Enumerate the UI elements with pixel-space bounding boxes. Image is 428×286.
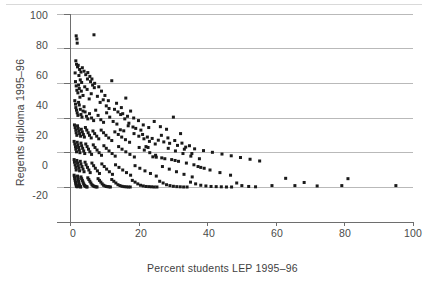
data-point (90, 117, 93, 120)
data-point (74, 59, 77, 62)
data-point (147, 126, 150, 129)
data-point (79, 113, 82, 116)
x-tick-label-60: 60 (261, 227, 293, 239)
data-point (284, 177, 287, 180)
data-point (79, 135, 82, 138)
data-point (108, 116, 111, 119)
data-point (87, 131, 90, 134)
data-point (175, 170, 178, 173)
data-point (186, 185, 189, 188)
data-point (86, 185, 89, 188)
data-point (105, 168, 108, 171)
data-point (100, 162, 103, 165)
data-point (303, 181, 306, 184)
data-point (95, 135, 98, 138)
data-point (127, 122, 130, 125)
data-point (97, 114, 100, 117)
data-point (103, 94, 106, 97)
data-point (136, 182, 139, 185)
data-point (189, 155, 192, 158)
data-point (116, 110, 119, 113)
data-point (79, 160, 82, 163)
data-point (91, 130, 94, 133)
data-point (97, 137, 100, 140)
data-point (124, 150, 127, 153)
data-point (143, 169, 146, 172)
data-point (100, 90, 103, 93)
data-point (102, 144, 105, 147)
data-point (199, 184, 202, 187)
data-point (74, 71, 77, 74)
data-point (168, 184, 171, 187)
data-point (177, 160, 180, 163)
data-point (114, 155, 117, 158)
data-point (167, 147, 170, 150)
data-point (76, 162, 79, 165)
data-point (126, 115, 129, 118)
data-point (78, 96, 81, 99)
data-point (120, 136, 123, 139)
data-point (103, 165, 106, 168)
data-point (111, 173, 114, 176)
data-point (83, 170, 86, 173)
data-point (151, 137, 154, 140)
data-point (82, 133, 85, 136)
data-point (76, 111, 79, 114)
data-point (123, 117, 126, 120)
data-point (75, 169, 78, 172)
data-point (79, 78, 82, 81)
data-point (188, 144, 191, 147)
data-point (129, 174, 132, 177)
data-point (153, 120, 156, 123)
data-point (91, 84, 94, 87)
data-point (93, 132, 96, 135)
data-point (90, 162, 93, 165)
data-point (184, 146, 187, 149)
data-point (142, 123, 145, 126)
data-point (198, 157, 201, 160)
data-point (83, 152, 86, 155)
data-point (146, 136, 149, 139)
data-point (189, 181, 192, 184)
data-point (125, 171, 128, 174)
data-point (134, 127, 137, 130)
data-point (122, 129, 125, 132)
data-point (79, 71, 82, 74)
data-point (151, 155, 154, 158)
data-point (172, 185, 175, 188)
data-point (190, 152, 193, 155)
data-point (162, 182, 165, 185)
data-point (107, 99, 110, 102)
data-point (76, 141, 79, 144)
data-point (128, 141, 131, 144)
data-point (90, 136, 93, 139)
data-point (84, 143, 87, 146)
data-point (121, 169, 124, 172)
data-point (115, 123, 118, 126)
data-point (113, 130, 116, 133)
data-point (96, 149, 99, 152)
data-point (254, 185, 257, 188)
data-point (158, 180, 161, 183)
data-point (75, 34, 78, 37)
data-point (137, 119, 140, 122)
data-point (110, 139, 113, 142)
data-point (75, 150, 78, 153)
data-point (142, 137, 145, 140)
data-point (203, 167, 206, 170)
data-point (131, 126, 134, 129)
data-point (155, 156, 158, 159)
data-point (86, 78, 89, 81)
data-point (113, 108, 116, 111)
data-point (100, 129, 103, 132)
data-point (180, 142, 183, 145)
data-point (165, 128, 168, 131)
data-point (74, 106, 77, 109)
data-point (114, 163, 117, 166)
data-point (88, 97, 91, 100)
data-point (100, 154, 103, 157)
data-point (138, 167, 141, 170)
data-point (82, 94, 85, 97)
data-point (108, 170, 111, 173)
data-point (204, 184, 207, 187)
